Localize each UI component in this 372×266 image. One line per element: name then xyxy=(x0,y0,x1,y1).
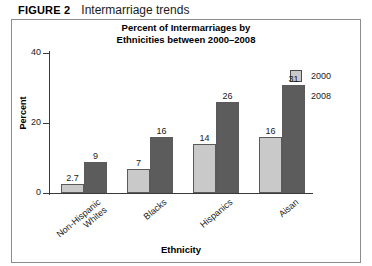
y-axis-tick-label: 40 xyxy=(12,47,41,57)
figure-caption: Intermarriage trends xyxy=(81,3,189,17)
bar-2000-blacks[interactable] xyxy=(127,169,150,194)
legend-label-2000: 2000 xyxy=(311,71,331,81)
bar-value-label: 26 xyxy=(222,91,232,101)
bar-2008-aisan[interactable] xyxy=(282,85,305,194)
chart-title-line-1: Percent of Intermarriages by xyxy=(12,22,360,34)
bar-group: 716 xyxy=(127,53,173,193)
figure-header: FIGURE 2 Intermarriage trends xyxy=(18,2,189,18)
legend-label-2008: 2008 xyxy=(311,91,331,101)
bar-value-label: 14 xyxy=(199,133,209,143)
bar-group: 1426 xyxy=(193,53,239,193)
chart-panel: Percent of Intermarriages by Ethnicities… xyxy=(11,19,361,263)
bar-value-label: 16 xyxy=(265,126,275,136)
figure-screenshot: FIGURE 2 Intermarriage trends Percent of… xyxy=(0,0,372,266)
figure-number: FIGURE 2 xyxy=(18,4,70,16)
bar-value-label: 2.7 xyxy=(66,173,79,183)
y-axis-title: Percent xyxy=(18,83,28,143)
bar-value-label: 9 xyxy=(93,151,98,161)
chart-title: Percent of Intermarriages by Ethnicities… xyxy=(12,22,360,46)
bar-value-label: 31 xyxy=(288,74,298,84)
chart-title-line-2: Ethnicities between 2000–2008 xyxy=(12,34,360,46)
bar-value-label: 16 xyxy=(156,126,166,136)
bar-2008-non-hispanic-whites[interactable] xyxy=(84,162,107,194)
plot-area: 2.7971614261631 xyxy=(49,53,313,193)
x-axis-line xyxy=(49,193,313,194)
bar-group: 2.79 xyxy=(61,53,107,193)
bar-2008-blacks[interactable] xyxy=(150,137,173,193)
y-axis-tick xyxy=(43,193,49,194)
bar-group: 1631 xyxy=(259,53,305,193)
bar-2008-hispanics[interactable] xyxy=(216,102,239,193)
bar-2000-aisan[interactable] xyxy=(259,137,282,193)
y-axis-tick-label: 0 xyxy=(12,187,41,197)
bar-2000-hispanics[interactable] xyxy=(193,144,216,193)
bar-2000-non-hispanic-whites[interactable] xyxy=(61,184,84,193)
bar-value-label: 7 xyxy=(136,158,141,168)
x-axis-title: Ethnicity xyxy=(49,244,313,255)
